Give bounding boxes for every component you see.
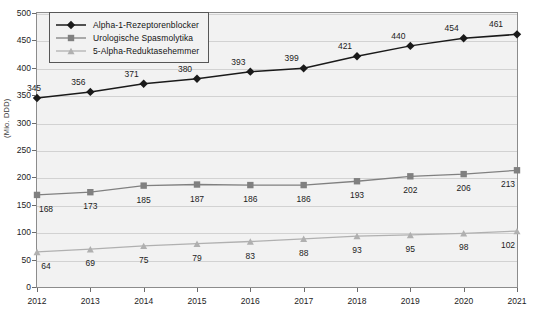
series-line <box>37 170 517 195</box>
diamond-marker <box>513 30 521 38</box>
x-axis-tick-label: 2014 <box>134 296 153 306</box>
y-axis-tick-label: 0 <box>1 282 31 292</box>
data-point-label: 193 <box>350 190 364 200</box>
diamond-marker <box>406 42 414 50</box>
data-point-label: 186 <box>243 194 257 204</box>
data-point-label: 345 <box>27 83 41 93</box>
y-axis-tick-mark <box>32 205 36 206</box>
y-axis-tick-mark <box>32 95 36 96</box>
data-point-label: 186 <box>297 194 311 204</box>
y-axis-tick-mark <box>32 177 36 178</box>
x-axis-tick-label: 2020 <box>454 296 473 306</box>
square-marker <box>68 34 74 40</box>
data-point-label: 69 <box>86 258 95 268</box>
x-axis-tick-mark <box>37 288 38 292</box>
data-point-label: 102 <box>501 240 515 250</box>
square-marker <box>514 167 520 173</box>
data-point-label: 206 <box>457 183 471 193</box>
y-axis-tick-mark <box>32 232 36 233</box>
data-point-label: 371 <box>125 69 139 79</box>
y-axis-tick-mark <box>32 287 36 288</box>
y-axis-tick-label: 100 <box>1 227 31 237</box>
x-axis-tick-mark <box>144 288 145 292</box>
legend-triangle-icon <box>56 45 86 57</box>
x-axis-tick-mark <box>304 288 305 292</box>
x-axis-tick-mark <box>464 288 465 292</box>
data-point-label: 95 <box>406 244 415 254</box>
square-marker <box>247 182 253 188</box>
legend-square-icon <box>56 32 86 44</box>
data-point-label: 75 <box>139 255 148 265</box>
x-axis-tick-mark <box>197 288 198 292</box>
data-point-label: 64 <box>41 261 50 271</box>
y-axis-tick-label: 200 <box>1 172 31 182</box>
data-point-label: 202 <box>403 185 417 195</box>
diamond-marker <box>86 88 94 96</box>
y-axis-tick-label: 450 <box>1 35 31 45</box>
y-axis-tick-label: 300 <box>1 118 31 128</box>
data-point-label: 393 <box>231 57 245 67</box>
data-point-label: 213 <box>501 179 515 189</box>
legend-item[interactable]: 5-Alpha-Reduktasehemmer <box>56 44 199 57</box>
legend-item[interactable]: Alpha-1-Rezeptorenblocker <box>56 18 199 31</box>
square-marker <box>354 178 360 184</box>
square-marker <box>460 171 466 177</box>
y-axis-tick-label: 50 <box>1 255 31 265</box>
y-axis-tick-mark <box>32 123 36 124</box>
y-axis-tick-mark <box>32 13 36 14</box>
data-point-label: 185 <box>137 195 151 205</box>
legend-label: Alpha-1-Rezeptorenblocker <box>93 20 199 30</box>
square-marker <box>407 173 413 179</box>
data-point-label: 98 <box>459 242 468 252</box>
x-axis-tick-label: 2021 <box>508 296 527 306</box>
data-point-label: 380 <box>178 64 192 74</box>
data-point-label: 83 <box>246 251 255 261</box>
data-point-label: 79 <box>192 253 201 263</box>
square-marker <box>300 182 306 188</box>
legend-diamond-icon <box>56 19 86 31</box>
x-axis-tick-mark <box>90 288 91 292</box>
data-point-label: 93 <box>352 245 361 255</box>
chart-legend: Alpha-1-RezeptorenblockerUrologische Spa… <box>49 12 209 63</box>
diamond-marker <box>193 75 201 83</box>
y-axis-tick-label: 150 <box>1 200 31 210</box>
data-point-label: 421 <box>338 41 352 51</box>
x-axis-tick-label: 2017 <box>294 296 313 306</box>
data-point-label: 399 <box>285 53 299 63</box>
square-marker <box>194 181 200 187</box>
diamond-marker <box>353 52 361 60</box>
diamond-marker <box>299 64 307 72</box>
y-axis-tick-label: 500 <box>1 8 31 18</box>
x-axis-tick-label: 2013 <box>81 296 100 306</box>
data-point-label: 88 <box>299 248 308 258</box>
y-axis-tick-mark <box>32 150 36 151</box>
x-axis-tick-label: 2019 <box>401 296 420 306</box>
x-axis-tick-mark <box>250 288 251 292</box>
y-axis-tick-mark <box>32 260 36 261</box>
x-axis-tick-label: 2012 <box>28 296 47 306</box>
series-line <box>37 231 517 252</box>
legend-item[interactable]: Urologische Spasmolytika <box>56 31 199 44</box>
legend-label: Urologische Spasmolytika <box>93 33 193 43</box>
y-axis-tick-mark <box>32 68 36 69</box>
diamond-marker <box>67 20 75 28</box>
data-point-label: 187 <box>190 194 204 204</box>
data-point-label: 454 <box>445 23 459 33</box>
diamond-marker <box>246 67 254 75</box>
y-axis-tick-label: 250 <box>1 145 31 155</box>
x-axis-tick-mark <box>410 288 411 292</box>
line-chart: (Mio. DDD) Alpha-1-RezeptorenblockerUrol… <box>0 0 535 319</box>
y-axis-tick-mark <box>32 40 36 41</box>
square-marker <box>34 192 40 198</box>
x-axis-tick-label: 2015 <box>188 296 207 306</box>
x-axis-tick-mark <box>517 288 518 292</box>
x-axis-tick-label: 2016 <box>241 296 260 306</box>
square-marker <box>87 189 93 195</box>
data-point-label: 168 <box>39 204 53 214</box>
x-axis-tick-label: 2018 <box>348 296 367 306</box>
x-axis-tick-mark <box>357 288 358 292</box>
diamond-marker <box>139 79 147 87</box>
diamond-marker <box>459 34 467 42</box>
data-point-label: 440 <box>391 31 405 41</box>
legend-label: 5-Alpha-Reduktasehemmer <box>93 46 199 56</box>
